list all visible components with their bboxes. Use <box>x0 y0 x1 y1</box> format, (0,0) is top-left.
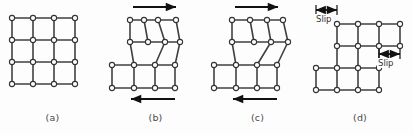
panel-caption-b: (b) <box>103 112 208 123</box>
panel-c: (c) <box>205 0 310 135</box>
panel-a: (a) <box>0 0 105 135</box>
panel-b: (b) <box>103 0 208 135</box>
panel-caption-d: (d) <box>307 112 413 123</box>
slip-label-middle: Slip <box>377 58 395 68</box>
lattice-bonds-c <box>214 20 288 88</box>
lattice-bonds-a <box>12 18 75 84</box>
lattice-bonds-d <box>316 24 400 90</box>
panel-d: SlipSlip(d) <box>307 0 413 135</box>
figure-root: (a)(b)(c)SlipSlip(d) <box>0 0 413 135</box>
lattice-diagram-a <box>0 0 105 110</box>
panel-caption-c: (c) <box>205 112 310 123</box>
slip-label-top: Slip <box>315 14 333 24</box>
panel-caption-a: (a) <box>0 112 105 123</box>
lattice-atoms-a <box>9 15 77 86</box>
lattice-diagram-b <box>103 0 208 110</box>
lattice-diagram-c <box>205 0 310 110</box>
lattice-bonds-b <box>112 20 180 88</box>
